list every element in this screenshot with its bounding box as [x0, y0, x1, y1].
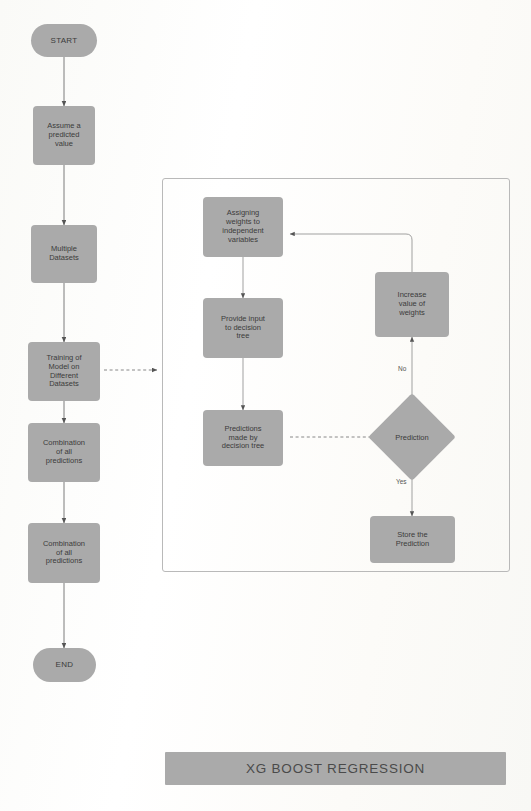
node-provide-input[interactable]: Provide input to decision tree: [203, 298, 283, 358]
diagram-title-bar: XG BOOST REGRESSION: [165, 752, 506, 785]
node-store-the-prediction-label: Store the Prediction: [372, 531, 453, 549]
node-combination-of-all-predictions-1[interactable]: Combination of all predictions: [28, 423, 100, 482]
flowchart-canvas: START Assume a predicted value Multiple …: [0, 0, 531, 811]
node-predictions-made[interactable]: Predictions made by decision tree: [203, 410, 283, 466]
node-assigning-weights-label: Assigning weights to independent variabl…: [205, 209, 281, 244]
node-end-label: END: [35, 660, 94, 669]
diagram-title-text: XG BOOST REGRESSION: [246, 761, 425, 776]
node-predictions-made-label: Predictions made by decision tree: [205, 425, 281, 452]
node-start[interactable]: START: [31, 24, 97, 57]
node-increase-value-of-weights-label: Increase value of weights: [377, 291, 447, 318]
node-multiple-datasets-label: Multiple Datasets: [33, 245, 95, 263]
node-training-of-model[interactable]: Training of Model on Different Datasets: [28, 342, 100, 401]
node-prediction-decision[interactable]: Prediction: [381, 406, 443, 468]
edge-label-no: No: [398, 365, 406, 372]
node-assume-predicted-value[interactable]: Assume a predicted value: [33, 106, 95, 165]
node-combination-of-all-predictions-2-label: Combination of all predictions: [30, 540, 98, 567]
node-training-of-model-label: Training of Model on Different Datasets: [30, 354, 98, 389]
node-start-label: START: [33, 36, 95, 45]
edge-label-yes: Yes: [396, 478, 407, 485]
node-store-the-prediction[interactable]: Store the Prediction: [370, 516, 455, 563]
node-combination-of-all-predictions-2[interactable]: Combination of all predictions: [28, 523, 100, 583]
node-multiple-datasets[interactable]: Multiple Datasets: [31, 225, 97, 283]
node-end[interactable]: END: [33, 648, 96, 682]
node-combination-of-all-predictions-1-label: Combination of all predictions: [30, 439, 98, 466]
node-assume-predicted-value-label: Assume a predicted value: [35, 122, 93, 149]
node-provide-input-label: Provide input to decision tree: [205, 315, 281, 342]
node-assigning-weights[interactable]: Assigning weights to independent variabl…: [203, 197, 283, 257]
node-increase-value-of-weights[interactable]: Increase value of weights: [375, 272, 449, 337]
node-prediction-decision-label: Prediction: [381, 406, 443, 468]
